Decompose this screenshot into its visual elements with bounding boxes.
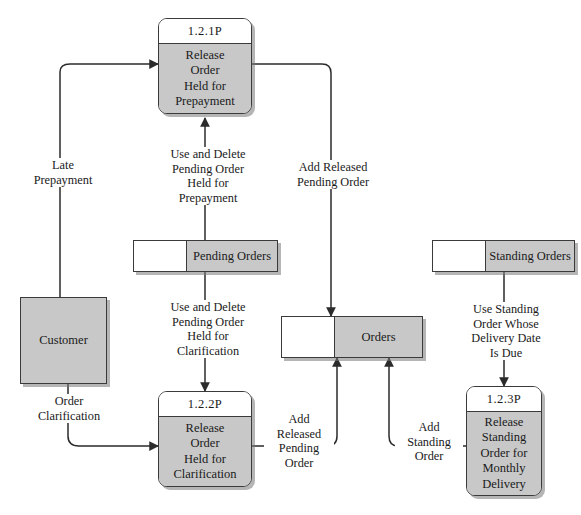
data-store-orders-label: Orders: [335, 317, 422, 357]
flow-label-add-standing-order: Add Standing Order: [395, 420, 463, 464]
flow-label-add-released-pending-order-bottom: Add Released Pending Order: [264, 412, 334, 470]
process-1-2-2P-name: Release Order Held for Clarification: [159, 417, 251, 486]
flow-label-order-clarification: Order Clarification: [16, 394, 122, 423]
data-store-orders-key: [282, 317, 335, 357]
flow-label-use-standing-order: Use Standing Order Whose Delivery Date I…: [447, 302, 565, 360]
flow-label-add-released-pending-order-top: Add Released Pending Order: [272, 160, 394, 189]
data-flow-diagram: 1.2.1P Release Order Held for Prepayment…: [0, 0, 581, 515]
process-1-2-2P-id: 1.2.2P: [159, 392, 251, 417]
flow-label-use-delete-pending-clarification: Use and Delete Pending Order Held for Cl…: [147, 300, 269, 358]
flow-label-use-delete-pending-prepayment: Use and Delete Pending Order Held for Pr…: [147, 147, 269, 205]
data-store-pending-orders-key: [134, 241, 187, 271]
data-store-pending-orders-label: Pending Orders: [187, 241, 277, 271]
data-store-orders[interactable]: Orders: [281, 316, 423, 358]
entity-customer[interactable]: Customer: [20, 297, 107, 384]
data-store-standing-orders-label: Standing Orders: [486, 241, 574, 271]
data-store-standing-orders[interactable]: Standing Orders: [432, 240, 575, 272]
flow-label-late-prepayment: Late Prepayment: [22, 158, 104, 187]
process-1-2-3P-id: 1.2.3P: [467, 387, 541, 412]
process-1-2-1P-id: 1.2.1P: [159, 19, 251, 44]
data-store-pending-orders[interactable]: Pending Orders: [133, 240, 278, 272]
entity-customer-label: Customer: [39, 333, 88, 348]
data-store-standing-orders-key: [433, 241, 486, 271]
process-1-2-3P-name: Release Standing Order for Monthly Deliv…: [467, 412, 541, 495]
process-1-2-3P[interactable]: 1.2.3P Release Standing Order for Monthl…: [466, 386, 542, 496]
process-1-2-1P[interactable]: 1.2.1P Release Order Held for Prepayment: [158, 18, 252, 114]
process-1-2-1P-name: Release Order Held for Prepayment: [159, 44, 251, 113]
process-1-2-2P[interactable]: 1.2.2P Release Order Held for Clarificat…: [158, 391, 252, 487]
